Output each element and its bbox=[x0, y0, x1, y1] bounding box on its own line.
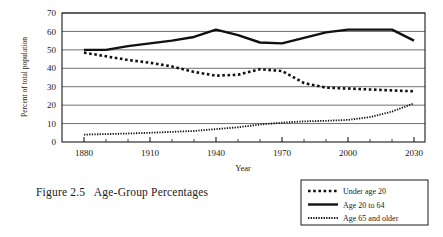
y-tick-label: 70 bbox=[47, 8, 57, 18]
x-axis-title: Year bbox=[235, 163, 251, 173]
y-axis-title: Percent of total population bbox=[20, 37, 29, 117]
chart-legend: Under age 20Age 20 to 64Age 65 and older bbox=[301, 180, 428, 225]
y-tick-label: 30 bbox=[47, 82, 57, 92]
x-tick-label: 1880 bbox=[75, 148, 94, 158]
x-tick-label: 1910 bbox=[141, 148, 160, 158]
x-tick-label: 2000 bbox=[339, 148, 358, 158]
y-tick-label: 0 bbox=[52, 137, 57, 147]
x-tick-label: 2030 bbox=[405, 148, 424, 158]
y-tick-label: 60 bbox=[47, 27, 57, 37]
y-tick-label: 50 bbox=[47, 45, 57, 55]
y-tick-label: 10 bbox=[47, 119, 57, 129]
x-tick-label: 1970 bbox=[273, 148, 292, 158]
age-group-percentages-chart: 010203040506070 188019101940197020002030… bbox=[0, 0, 443, 237]
figure-caption: Figure 2.5 Age-Group Percentages bbox=[36, 186, 208, 198]
y-tick-label: 20 bbox=[47, 100, 57, 110]
legend-label: Age 65 and older bbox=[343, 214, 399, 223]
figure-container: 010203040506070 188019101940197020002030… bbox=[0, 0, 443, 237]
y-tick-label: 40 bbox=[47, 63, 57, 73]
x-tick-label: 1940 bbox=[207, 148, 226, 158]
legend-label: Under age 20 bbox=[343, 187, 386, 196]
legend-label: Age 20 to 64 bbox=[343, 201, 385, 210]
